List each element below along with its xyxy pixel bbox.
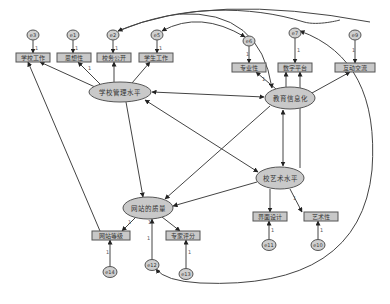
observed-界面设计: 界面设计 [253, 212, 287, 221]
edge-L1-学生工作 [132, 62, 150, 83]
observed-专业性: 专业性 [232, 63, 266, 72]
path-L3-L4 [173, 182, 257, 206]
error-e2: e2 [107, 30, 119, 40]
svg-text:1: 1 [159, 45, 162, 51]
label: 校艺术水平 [263, 174, 298, 183]
cov-arc-to-L2 [180, 14, 272, 88]
observed-校务公开: 校务公开 [97, 53, 131, 62]
label: 校务公开 [102, 54, 126, 62]
latent-校艺术水平: 校艺术水平 [256, 167, 304, 189]
observed-学校工作: 学校工作 [16, 53, 50, 62]
svg-text:1: 1 [115, 45, 118, 51]
label: 界面设计 [258, 213, 282, 221]
label: e2 [110, 32, 116, 38]
observed-学生工作: 学生工作 [139, 53, 173, 62]
label: 艺术性 [312, 213, 330, 221]
label: e12 [147, 262, 156, 268]
observed-variables: 学校工作 思想性 校务公开 学生工作 专业性 数字平台 互动交流 界面设计 [16, 53, 375, 240]
error-e7: e7 [289, 28, 301, 38]
path-L1-L3 [145, 100, 258, 172]
error-e1: e1 [67, 30, 79, 40]
label: 网站的质量 [131, 204, 166, 213]
label: 学校管理水平 [99, 88, 141, 97]
observed-网站等级: 网站等级 [92, 231, 130, 240]
svg-text:1: 1 [106, 249, 109, 255]
svg-text:1: 1 [35, 45, 38, 51]
label: e9 [352, 32, 358, 38]
svg-text:1: 1 [128, 219, 131, 225]
label: 学生工作 [144, 54, 168, 62]
latent-教育信息化: 教育信息化 [265, 87, 315, 109]
error-e13: e13 [179, 269, 193, 280]
observed-互动交流: 互动交流 [335, 63, 375, 72]
observed-思想性: 思想性 [57, 53, 91, 62]
sem-diagram: 1 1 1 1 1 1 1 1 1 1 1 1 1 1 1 1 1 学校工作 思… [0, 0, 390, 304]
error-e12: e12 [145, 260, 159, 271]
fixed-loading-labels: 1 1 1 1 1 1 1 1 1 1 1 1 1 1 1 1 1 [35, 45, 355, 255]
latent-网站的质量: 网站的质量 [123, 197, 173, 219]
error-e5: e5 [151, 30, 163, 40]
svg-text:1: 1 [148, 219, 151, 225]
label: e7 [292, 30, 298, 36]
label: 教育信息化 [273, 94, 308, 103]
label: e10 [313, 242, 322, 248]
cov-L1-L2 [152, 92, 264, 97]
svg-text:1: 1 [88, 65, 91, 71]
path-L1-L4 [126, 102, 143, 197]
label: e6 [246, 38, 252, 44]
label: 专家评分 [171, 232, 195, 240]
svg-text:1: 1 [188, 249, 191, 255]
error-e11: e11 [262, 240, 276, 251]
label: e3 [30, 32, 36, 38]
label: e11 [264, 242, 273, 248]
label: e13 [181, 271, 190, 277]
label: 互动交流 [343, 64, 367, 72]
cov-e2-e9 [118, 9, 370, 31]
error-e10: e10 [311, 240, 325, 251]
svg-text:1: 1 [75, 45, 78, 51]
observed-艺术性: 艺术性 [304, 212, 338, 221]
error-e3: e3 [27, 30, 39, 40]
path-L2-L4 [165, 106, 270, 199]
svg-text:1: 1 [352, 47, 355, 53]
error-e9: e9 [349, 30, 361, 40]
edge-L2-互动交流 [312, 72, 350, 93]
label: 数字平台 [283, 64, 307, 72]
svg-text:1: 1 [271, 227, 274, 233]
svg-text:1: 1 [246, 51, 249, 57]
latent-variables: 学校管理水平 教育信息化 校艺术水平 网站的质量 [89, 82, 315, 219]
svg-text:1: 1 [262, 76, 265, 82]
cov-e2-top-arc [118, 10, 340, 31]
observed-专家评分: 专家评分 [166, 231, 200, 240]
latent-学校管理水平: 学校管理水平 [89, 82, 151, 102]
label: 学校工作 [21, 54, 45, 62]
error-e14: e14 [103, 267, 117, 278]
label: e5 [154, 32, 160, 38]
edge-L2-专业性 [256, 72, 276, 89]
svg-text:1: 1 [297, 47, 300, 53]
svg-text:1: 1 [293, 195, 296, 201]
error-e6: e6 [243, 36, 255, 46]
label: e14 [105, 269, 114, 275]
edge-L1-学校工作 [40, 62, 95, 87]
label: 网站等级 [99, 232, 123, 240]
svg-text:1: 1 [147, 235, 150, 241]
edge-L4-专家评分 [162, 217, 180, 231]
observed-数字平台: 数字平台 [278, 63, 312, 72]
svg-text:1: 1 [320, 227, 323, 233]
label: 思想性 [65, 54, 83, 62]
edge-网站等级-学校工作 [28, 62, 100, 231]
label: e1 [70, 32, 76, 38]
label: 专业性 [240, 64, 258, 72]
